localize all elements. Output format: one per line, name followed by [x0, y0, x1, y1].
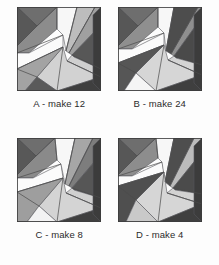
patch-border-shadow-right: [93, 7, 101, 91]
quilt-block-c-svg: [17, 138, 101, 222]
patch-border-shadow-right: [194, 138, 202, 222]
block-cell-b: B - make 24: [111, 4, 210, 135]
quilt-block-diagram-sheet: A - make 12 B - make 24 C - make 8 D - m…: [0, 0, 219, 265]
block-caption-a: A - make 12: [33, 98, 85, 109]
quilt-block-d-svg: [118, 138, 202, 222]
block-cell-d: D - make 4: [111, 135, 210, 265]
quilt-block-d: [118, 138, 202, 222]
quilt-block-c: [17, 138, 101, 222]
quilt-block-a: [17, 7, 101, 91]
block-grid: A - make 12 B - make 24 C - make 8 D - m…: [0, 0, 219, 265]
patch-border-shadow-right: [93, 138, 101, 222]
block-cell-a: A - make 12: [10, 4, 109, 135]
block-caption-d: D - make 4: [136, 229, 183, 240]
block-caption-b: B - make 24: [134, 98, 186, 109]
quilt-block-a-svg: [17, 7, 101, 91]
block-caption-c: C - make 8: [36, 229, 83, 240]
quilt-block-b: [118, 7, 202, 91]
patch-border-shadow-right: [194, 7, 202, 91]
quilt-block-b-svg: [118, 7, 202, 91]
block-cell-c: C - make 8: [10, 135, 109, 265]
